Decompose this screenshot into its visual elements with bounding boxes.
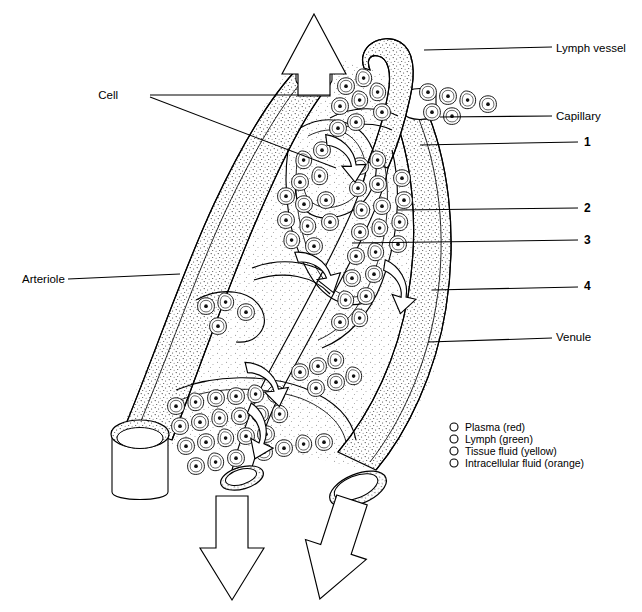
legend-marker-icon xyxy=(450,435,458,443)
figure-canvas: Cell Arteriole Lymph vessel Capillary 1 … xyxy=(0,0,642,612)
label-callout-3: 3 xyxy=(584,233,591,247)
legend-label-tissue-fluid: Tissue fluid (yellow) xyxy=(465,445,557,457)
legend-label-plasma: Plasma (red) xyxy=(465,421,525,433)
arteriole-cut-end xyxy=(111,420,169,500)
label-arteriole: Arteriole xyxy=(22,273,65,285)
legend-marker-icon xyxy=(450,447,458,455)
label-cell: Cell xyxy=(98,89,118,101)
legend-marker-icon xyxy=(450,423,458,431)
label-callout-2: 2 xyxy=(584,201,591,215)
legend-label-lymph: Lymph (green) xyxy=(465,433,533,445)
legend-item-tissue-fluid: Tissue fluid (yellow) xyxy=(450,445,557,457)
label-callout-4: 4 xyxy=(584,279,591,293)
microcirculation-diagram: Cell Arteriole Lymph vessel Capillary 1 … xyxy=(0,0,642,612)
legend-item-intracellular-fluid: Intracellular fluid (orange) xyxy=(450,457,584,469)
label-capillary: Capillary xyxy=(556,110,601,122)
label-venule: Venule xyxy=(556,331,591,343)
legend-marker-icon xyxy=(450,459,458,467)
label-callout-1: 1 xyxy=(584,135,591,149)
legend-label-intracellular-fluid: Intracellular fluid (orange) xyxy=(465,457,584,469)
label-lymph-vessel: Lymph vessel xyxy=(556,42,626,54)
